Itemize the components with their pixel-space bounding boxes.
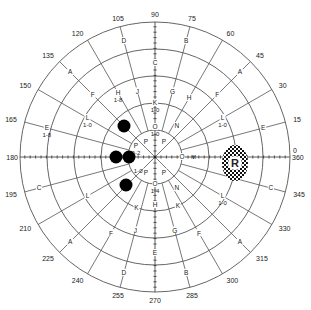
isopter-label: N: [174, 184, 179, 191]
isopter-label: O: [152, 180, 157, 187]
degree-label: 345: [293, 191, 305, 198]
isopter-value: 1-8: [42, 132, 51, 138]
degree-label: 240: [72, 277, 84, 284]
isopter-label: G: [172, 227, 177, 234]
degree-label: 135: [42, 52, 54, 59]
scotoma-dot: [123, 151, 136, 164]
scotoma-dot: [118, 120, 131, 133]
isopter-label: A: [68, 238, 73, 245]
isopter-label: L: [86, 114, 90, 121]
isopter-value: 1-0: [83, 122, 92, 128]
perimetry-chart: 1530456075901051201351501651801952102252…: [0, 0, 311, 310]
isopter-label: P: [134, 142, 138, 149]
blind-spot-label: R: [231, 157, 239, 169]
isopter-label: P: [144, 169, 148, 176]
blind-spot: R: [222, 145, 248, 181]
isopter-label: N: [174, 122, 179, 129]
degree-label: 210: [19, 225, 31, 232]
isopter-label: J: [134, 227, 137, 234]
isopter-label: A: [238, 68, 243, 75]
degree-label: 360: [292, 154, 304, 161]
isopter-value: M: [191, 154, 196, 160]
degree-label: 270: [149, 297, 161, 304]
isopter-label: F: [109, 230, 113, 237]
degree-label: 45: [256, 52, 264, 59]
isopter-label: J: [136, 88, 139, 95]
degree-label: 195: [5, 191, 17, 198]
degree-label: 180: [6, 154, 18, 161]
degree-label: 165: [5, 116, 17, 123]
isopter-label: P: [162, 138, 166, 145]
isopter-label: O: [152, 123, 157, 130]
visual-field-plot: 1530456075901051201351501651801952102252…: [0, 0, 311, 310]
degree-label: 75: [188, 15, 196, 22]
isopter-label: L: [221, 192, 225, 199]
isopter-value: 1-0: [218, 200, 227, 206]
isopter-label: E: [153, 249, 158, 256]
isopter-label: P: [144, 138, 148, 145]
isopter-label: B: [184, 269, 188, 276]
degree-label: 150: [19, 82, 31, 89]
isopter-label: H: [153, 201, 158, 208]
isopter-value: 1-0: [134, 168, 143, 174]
fixation-point: [154, 156, 157, 159]
isopter-value: 1-0: [151, 131, 160, 137]
isopter-label: H: [116, 89, 121, 96]
degree-label: 60: [227, 30, 235, 37]
isopter-label: K: [153, 99, 158, 106]
isopter-label: D: [122, 269, 127, 276]
isopter-label: A: [68, 68, 73, 75]
isopter-label: C: [153, 59, 158, 66]
degree-label: 120: [72, 30, 84, 37]
degree-label: 30: [279, 82, 287, 89]
isopter-label: O: [179, 153, 184, 160]
degree-label: 0: [293, 147, 297, 154]
isopter-label: E: [261, 124, 266, 131]
degree-label: 255: [112, 292, 124, 299]
isopter-label: F: [215, 91, 219, 98]
isopter-label: D: [122, 37, 127, 44]
degree-label: 315: [256, 255, 268, 262]
degree-label: 300: [227, 277, 239, 284]
isopter-label: A: [238, 238, 243, 245]
degree-label: 225: [42, 255, 54, 262]
isopter-label: K: [176, 202, 181, 209]
degree-label: 330: [279, 225, 291, 232]
meridian-line: [88, 40, 142, 134]
scotoma-dot: [110, 151, 123, 164]
isopter-value: 1-8: [114, 97, 123, 103]
isopter-label: B: [184, 37, 188, 44]
isopter-value: 1-0: [218, 122, 227, 128]
degree-label: 15: [293, 116, 301, 123]
meridian-line: [169, 40, 223, 134]
isopter-label: E: [45, 124, 50, 131]
isopter-value: 1-4: [151, 188, 160, 194]
degree-label: 285: [186, 292, 198, 299]
degree-label: 105: [112, 15, 124, 22]
isopter-label: C: [37, 184, 42, 191]
isopter-label: G: [170, 88, 175, 95]
isopter-label: P: [162, 169, 166, 176]
isopter-label: C: [269, 184, 274, 191]
isopter-label: L: [86, 192, 90, 199]
isopter-label: F: [197, 230, 201, 237]
isopter-value: 1-0: [151, 107, 160, 113]
isopter-label: H: [187, 94, 192, 101]
isopter-label: L: [221, 114, 225, 121]
scotoma-dot: [120, 179, 133, 192]
degree-label: 90: [151, 11, 159, 18]
isopter-label: F: [91, 91, 95, 98]
isopter-label: K: [134, 204, 139, 211]
meridian-line: [25, 122, 129, 150]
